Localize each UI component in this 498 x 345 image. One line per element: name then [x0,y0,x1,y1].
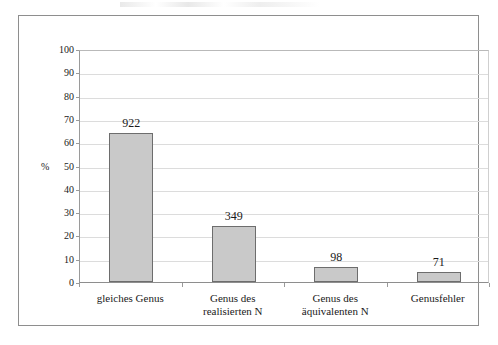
bar-slot: 98 [285,51,388,282]
bar-value-label: 922 [122,117,140,129]
x-axis-category-label: gleiches Genus [79,292,182,305]
y-axis-tick-label: 60 [64,138,74,148]
bar-value-label: 349 [225,210,243,222]
bar[interactable] [417,272,461,282]
scan-artifact [120,2,320,7]
bar-value-label: 98 [330,251,342,263]
chart-outer-frame: % 0102030405060708090100 9223499871 glei… [18,15,479,326]
y-axis-tick-label: 50 [64,162,74,172]
x-axis-tick-mark [79,283,80,287]
y-axis-tick-label: 10 [64,255,74,265]
y-axis-tick-label: 30 [64,208,74,218]
bar-value-label: 71 [433,256,445,268]
bar-slot: 71 [388,51,491,282]
y-axis: % 0102030405060708090100 [37,50,79,283]
y-axis-tick-label: 40 [64,185,74,195]
x-axis-tick-mark [284,283,285,287]
x-axis-label-line: Genus des [284,292,387,305]
x-axis-label-line: realisierten N [182,305,285,318]
bar[interactable] [109,133,153,282]
bars-layer: 9223499871 [80,51,488,282]
bar[interactable] [212,226,256,282]
x-axis-label-line: Genusfehler [387,292,490,305]
x-axis-tick-mark [182,283,183,287]
bar-chart-figure: % 0102030405060708090100 9223499871 glei… [0,0,498,345]
y-axis-tick-label: 80 [64,92,74,102]
y-axis-tick-label: 0 [69,278,74,288]
x-axis-tick-mark [489,283,490,287]
bar-slot: 922 [80,51,183,282]
y-axis-tick-label: 100 [59,45,74,55]
plot-area: 9223499871 [79,50,489,283]
x-axis-label-line: äquivalenten N [284,305,387,318]
y-axis-caption: % [41,162,49,172]
x-axis-tick-mark [387,283,388,287]
x-axis-category-label: Genus desäquivalenten N [284,292,387,318]
bar[interactable] [314,267,358,282]
y-axis-tick-label: 70 [64,115,74,125]
y-axis-tick-label: 20 [64,231,74,241]
x-axis-category-label: Genus desrealisierten N [182,292,285,318]
x-axis-label-line: gleiches Genus [79,292,182,305]
y-axis-tick-label: 90 [64,68,74,78]
x-axis-label-line: Genus des [182,292,285,305]
bar-slot: 349 [183,51,286,282]
x-axis-category-label: Genusfehler [387,292,490,305]
